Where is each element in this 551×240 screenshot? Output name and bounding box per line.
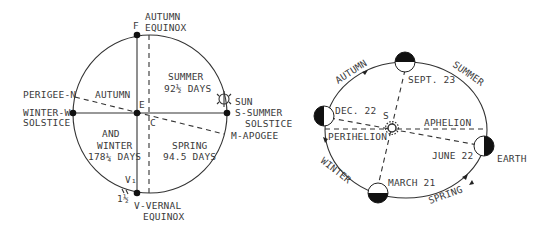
label-winter: WINTER: [319, 155, 354, 186]
label-f: F: [133, 20, 139, 31]
label-autumn-equinox: AUTUMN: [145, 11, 181, 22]
label-sun: SUN: [235, 96, 253, 107]
point-s: [224, 110, 231, 117]
label-v1: V₁: [125, 174, 137, 185]
point-w: [70, 110, 77, 117]
label-and: AND: [102, 128, 120, 139]
orbit-diagrams: F AUTUMN EQUINOX SUMMER 92½ DAYS PERIGEE…: [0, 0, 551, 240]
label-e: E: [139, 99, 145, 110]
arrow-icon: [469, 180, 474, 185]
point-v: [134, 190, 141, 197]
sun-icon: [386, 122, 399, 135]
label-perihelion: PERIHELION: [328, 131, 387, 142]
label-june: JUNE 22: [432, 150, 473, 161]
point-e: [134, 110, 141, 117]
label-dec: DEC. 22: [335, 105, 376, 116]
label-summer-solstice-2: SOLSTICE: [245, 118, 292, 129]
label-aphelion: APHELION: [424, 117, 471, 128]
label-autumn-equinox-2: EQUINOX: [145, 22, 187, 33]
label-s: S: [383, 110, 389, 121]
sun-icon: [217, 91, 231, 107]
earth-sept-icon: [395, 52, 415, 72]
label-summer: SUMMER: [168, 71, 204, 82]
label-earth: EARTH: [497, 153, 527, 164]
label-summer-solstice: S-SUMMER: [235, 107, 282, 118]
label-summer-days: 92½ DAYS: [164, 83, 211, 94]
label-summer: SUMMER: [451, 59, 486, 88]
label-vernal-equinox-2: EQUINOX: [143, 211, 185, 222]
point-f: [134, 32, 141, 39]
label-perigee: PERIGEE-N: [23, 89, 76, 100]
left-orbit-ellipse: [73, 35, 227, 193]
earth-march-icon: [368, 183, 388, 203]
left-orbit-diagram: F AUTUMN EQUINOX SUMMER 92½ DAYS PERIGEE…: [23, 11, 292, 222]
label-spring: SPRING: [172, 140, 208, 151]
right-orbit-diagram: AUTUMN SUMMER SEPT. 23 DEC. 22 S APHELIO…: [314, 52, 527, 206]
label-winter-days: 178¼ DAYS: [88, 151, 141, 162]
label-march: MARCH 21: [388, 177, 435, 188]
label-winter-solstice-2: SOLSTICE: [23, 117, 70, 128]
label-spring-days: 94.5 DAYS: [163, 151, 216, 162]
label-sept: SEPT. 23: [408, 74, 455, 85]
label-vernal-equinox: V-VERNAL: [134, 200, 181, 211]
label-c: C: [150, 117, 156, 128]
label-one-half: 1½: [117, 193, 129, 204]
label-winter: WINTER: [97, 140, 133, 151]
label-autumn: AUTUMN: [95, 89, 131, 100]
earth-dec-icon: [314, 106, 334, 126]
earth-june-icon: [474, 136, 494, 156]
label-apogee: M-APOGEE: [231, 130, 278, 141]
